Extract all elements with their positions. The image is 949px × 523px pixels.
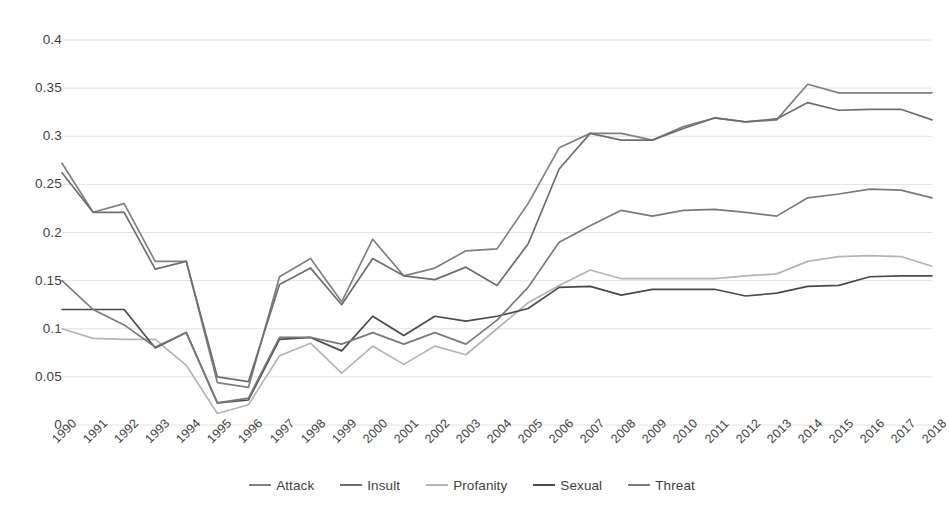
legend-item-threat[interactable]: Threat: [628, 478, 695, 493]
x-tick-label: 2013: [765, 417, 794, 446]
legend-label: Insult: [367, 478, 400, 493]
chart-legend: AttackInsultProfanitySexualThreat: [0, 473, 944, 497]
legend-label: Threat: [655, 478, 695, 493]
x-tick-label: 2000: [361, 417, 390, 446]
x-tick-label: 2005: [516, 417, 545, 446]
x-tick-label: 2017: [889, 417, 918, 446]
x-tick-label: 2001: [392, 417, 421, 446]
legend-item-sexual[interactable]: Sexual: [533, 478, 602, 493]
x-tick-label: 2009: [640, 417, 669, 446]
x-tick-label: 1998: [299, 417, 328, 446]
legend-line-swatch-icon: [340, 484, 362, 486]
legend-line-swatch-icon: [628, 484, 650, 486]
x-tick-label: 2010: [671, 417, 700, 446]
x-tick-label: 2003: [454, 417, 483, 446]
legend-label: Attack: [276, 478, 314, 493]
x-tick-label: 2011: [703, 417, 731, 445]
x-tick-label: 2015: [827, 417, 856, 446]
legend-line-swatch-icon: [533, 484, 555, 486]
legend-item-insult[interactable]: Insult: [340, 478, 400, 493]
x-tick-label: 2004: [485, 417, 514, 446]
x-tick-label: 2014: [796, 417, 825, 446]
legend-label: Sexual: [560, 478, 602, 493]
x-tick-label: 1993: [143, 417, 172, 446]
x-tick-label: 1992: [112, 417, 141, 446]
legend-item-profanity[interactable]: Profanity: [426, 478, 507, 493]
x-tick-label: 2002: [423, 417, 452, 446]
x-tick-label: 2012: [734, 417, 763, 446]
x-tick-label: 1991: [81, 417, 110, 446]
x-tick-label: 1995: [205, 417, 234, 446]
legend-label: Profanity: [453, 478, 507, 493]
x-tick-label: 1997: [268, 417, 297, 446]
x-tick-label: 1990: [50, 417, 79, 446]
x-tick-label: 1994: [174, 417, 203, 446]
x-tick-label: 1999: [330, 417, 359, 446]
x-tick-label: 1996: [236, 417, 265, 446]
x-tick-label: 2007: [578, 417, 607, 446]
x-tick-label: 2008: [609, 417, 638, 446]
x-tick-label: 2016: [858, 417, 887, 446]
x-tick-label: 2006: [547, 417, 576, 446]
legend-line-swatch-icon: [249, 484, 271, 486]
x-tick-label: 2018: [920, 417, 949, 446]
legend-item-attack[interactable]: Attack: [249, 478, 314, 493]
legend-line-swatch-icon: [426, 484, 448, 486]
